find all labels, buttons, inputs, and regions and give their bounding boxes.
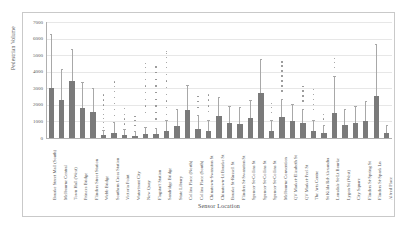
x-tick-label: Lonsdale St-Lt Bourke: [336, 158, 341, 200]
bar[interactable]: [290, 121, 295, 138]
bar[interactable]: [363, 121, 368, 138]
bar-group[interactable]: [258, 22, 263, 138]
bar-group[interactable]: [374, 22, 379, 138]
bar[interactable]: [174, 126, 179, 138]
bar[interactable]: [311, 131, 316, 138]
bar-group[interactable]: [216, 22, 221, 138]
x-tick-label: The Arts Centre: [315, 171, 320, 200]
error-bar-cap: [333, 76, 335, 77]
bar-group[interactable]: [101, 22, 106, 138]
bar[interactable]: [353, 123, 358, 138]
bar-group[interactable]: [384, 22, 389, 138]
y-tick-label: 0: [41, 136, 44, 141]
error-bar-cap: [50, 34, 52, 35]
x-tick-label: Flinders St-Spark Ln: [378, 161, 383, 200]
x-tick-label: Princes Bridge: [84, 173, 89, 200]
bar[interactable]: [227, 123, 232, 138]
error-bar-cap: [375, 44, 377, 45]
outlier-point: [155, 85, 156, 86]
bar-group[interactable]: [353, 22, 358, 138]
bar[interactable]: [279, 117, 284, 138]
outlier-point: [124, 114, 125, 115]
error-bar-cap: [228, 106, 230, 107]
bar-group[interactable]: [206, 22, 211, 138]
bar[interactable]: [216, 116, 221, 138]
outlier-point: [323, 114, 324, 115]
bar-group[interactable]: [69, 22, 74, 138]
outlier-point: [302, 86, 303, 87]
bar-group[interactable]: [59, 22, 64, 138]
outlier-point: [313, 104, 314, 105]
bar-group[interactable]: [132, 22, 137, 138]
outlier-point: [145, 72, 146, 73]
bar[interactable]: [164, 131, 169, 138]
bar[interactable]: [342, 125, 347, 138]
outlier-point: [334, 67, 335, 68]
outlier-point: [124, 108, 125, 109]
bar[interactable]: [80, 108, 85, 138]
bar-group[interactable]: [153, 22, 158, 138]
outlier-point: [155, 72, 156, 73]
bar[interactable]: [49, 88, 54, 138]
bar-group[interactable]: [111, 22, 116, 138]
error-bar-cap: [176, 109, 178, 110]
x-tick-label: Lygon St (West): [347, 170, 352, 200]
bar-group[interactable]: [321, 22, 326, 138]
bar[interactable]: [332, 113, 337, 138]
bar-group[interactable]: [279, 22, 284, 138]
bar-group[interactable]: [342, 22, 347, 138]
bar-group[interactable]: [143, 22, 148, 138]
outlier-point: [155, 112, 156, 113]
bar-group[interactable]: [227, 22, 232, 138]
error-bar-cap: [218, 97, 220, 98]
bar[interactable]: [237, 124, 242, 138]
error-bar-cap: [186, 85, 188, 86]
bar-group[interactable]: [164, 22, 169, 138]
bar-group[interactable]: [80, 22, 85, 138]
bar-group[interactable]: [269, 22, 274, 138]
bar[interactable]: [269, 131, 274, 138]
outlier-point: [166, 114, 167, 115]
x-tick-label: Flinders Street Station: [95, 159, 100, 200]
bar-group[interactable]: [174, 22, 179, 138]
x-tick-label: Spencer St-Collins St: [273, 160, 278, 200]
outlier-point: [145, 105, 146, 106]
outlier-point: [114, 97, 115, 98]
outlier-point: [208, 94, 209, 95]
bar-group[interactable]: [49, 22, 54, 138]
bar-group[interactable]: [290, 22, 295, 138]
bar[interactable]: [90, 112, 95, 139]
outlier-point: [145, 67, 146, 68]
outlier-point: [166, 62, 167, 63]
bar-group[interactable]: [332, 22, 337, 138]
outlier-point: [281, 75, 282, 76]
bar-group[interactable]: [363, 22, 368, 138]
bar-group[interactable]: [248, 22, 253, 138]
outlier-point: [103, 104, 104, 105]
error-bar-cap: [113, 122, 115, 123]
bar[interactable]: [185, 110, 190, 138]
bar-group[interactable]: [122, 22, 127, 138]
error-bar-cap: [354, 106, 356, 107]
bar[interactable]: [69, 81, 74, 138]
bar[interactable]: [248, 118, 253, 138]
bar[interactable]: [206, 131, 211, 138]
outlier-point: [145, 112, 146, 113]
bar-group[interactable]: [195, 22, 200, 138]
y-axis-title-holder: Pedestrian Volume: [26, 22, 36, 138]
outlier-point: [103, 109, 104, 110]
bar-group[interactable]: [311, 22, 316, 138]
bar[interactable]: [195, 129, 200, 138]
bar[interactable]: [300, 123, 305, 138]
outlier-point: [145, 79, 146, 80]
bar-group[interactable]: [90, 22, 95, 138]
bar[interactable]: [258, 93, 263, 138]
x-tick-label: Bourke Street Mall (South): [53, 150, 58, 200]
bar-group[interactable]: [300, 22, 305, 138]
bar[interactable]: [374, 96, 379, 138]
bar-group[interactable]: [185, 22, 190, 138]
error-bar-cap: [155, 128, 157, 129]
bar[interactable]: [59, 100, 64, 138]
bar-group[interactable]: [237, 22, 242, 138]
outlier-point: [313, 89, 314, 90]
